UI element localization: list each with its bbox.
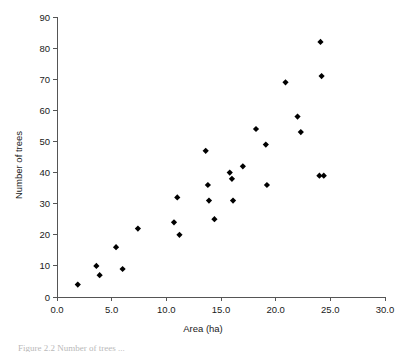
data-point-marker (230, 197, 236, 203)
data-point-marker (203, 148, 209, 154)
data-point-marker (321, 173, 327, 179)
data-point-marker (294, 113, 300, 119)
data-point-marker (240, 163, 246, 169)
y-tick-label: 70 (39, 74, 50, 85)
x-tick-label: 0.0 (50, 304, 63, 315)
y-tick-label: 10 (39, 260, 50, 271)
data-point-marker (113, 244, 119, 250)
y-tick-label: 80 (39, 43, 50, 54)
y-tick-label: 60 (39, 105, 50, 116)
data-point-marker (282, 79, 288, 85)
data-point-marker (174, 194, 180, 200)
data-point-marker (318, 73, 324, 79)
scatter-plot: 0102030405060708090 0.05.010.015.020.025… (0, 0, 413, 352)
y-tick-label: 0 (45, 292, 50, 303)
data-point-marker (317, 39, 323, 45)
x-tick-label: 30.0 (376, 304, 395, 315)
y-tick-label: 20 (39, 229, 50, 240)
y-tick-label: 40 (39, 167, 50, 178)
data-point-marker (263, 141, 269, 147)
x-tick-label: 5.0 (105, 304, 118, 315)
x-tick-label: 15.0 (212, 304, 231, 315)
data-point-marker (97, 272, 103, 278)
data-point-marker (298, 129, 304, 135)
y-axis-title: Number of trees (13, 131, 24, 199)
data-point-marker (75, 281, 81, 287)
x-axis-title: Area (ha) (183, 323, 223, 334)
x-tick-label: 25.0 (321, 304, 340, 315)
data-point-marker (253, 126, 259, 132)
y-tick-label: 50 (39, 136, 50, 147)
figure-caption: Figure 2.2 Number of trees ... (18, 343, 398, 352)
y-axis-ticks: 0102030405060708090 (39, 12, 57, 303)
y-tick-label: 90 (39, 12, 50, 23)
data-point-marker (227, 169, 233, 175)
data-point-marker (176, 232, 182, 238)
data-point-marker (93, 263, 99, 269)
data-point-marker (264, 182, 270, 188)
x-tick-label: 20.0 (266, 304, 285, 315)
data-point-marker (171, 219, 177, 225)
x-tick-label: 10.0 (157, 304, 176, 315)
data-point-marker (120, 266, 126, 272)
data-points (75, 39, 327, 288)
data-point-marker (135, 225, 141, 231)
figure-container: 0102030405060708090 0.05.010.015.020.025… (0, 0, 413, 352)
y-tick-label: 30 (39, 198, 50, 209)
data-point-marker (206, 197, 212, 203)
x-axis-ticks: 0.05.010.015.020.025.030.0 (50, 297, 394, 315)
data-point-marker (229, 176, 235, 182)
data-point-marker (205, 182, 211, 188)
data-point-marker (211, 216, 217, 222)
